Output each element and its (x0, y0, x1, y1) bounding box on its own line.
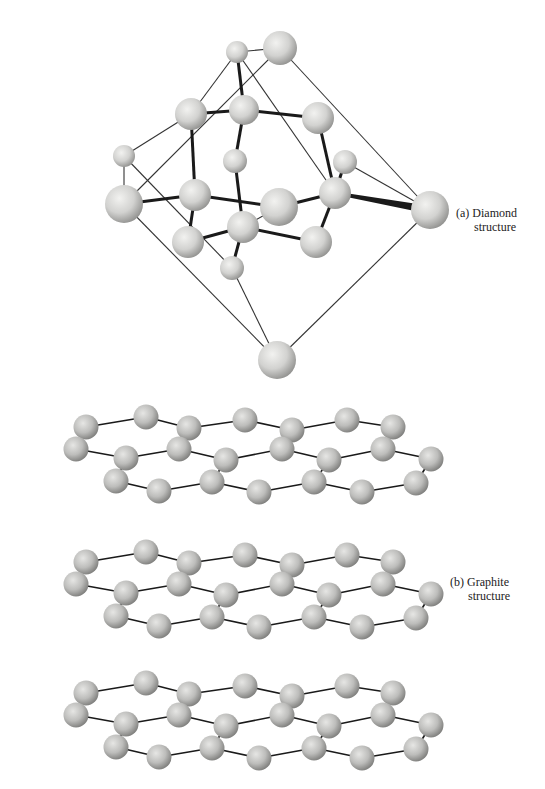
carbon-atom (260, 188, 298, 226)
carbon-atom (404, 737, 429, 762)
carbon-atom (404, 606, 429, 631)
carbon-atom (134, 671, 159, 696)
carbon-atom (350, 615, 375, 640)
carbon-atom (220, 256, 244, 280)
carbon-atom (302, 102, 334, 134)
carbon-atom (147, 745, 172, 770)
carbon-atom (214, 714, 239, 739)
graphite-label-line2: structure (450, 589, 510, 603)
carbon-atom (214, 583, 239, 608)
carbon-atom (167, 437, 192, 462)
diamond-label-line1: (a) Diamond (456, 206, 517, 220)
carbon-atom (302, 736, 327, 761)
carbon-atom (270, 703, 295, 728)
carbon-atom (200, 736, 225, 761)
carbon-atom (247, 746, 272, 771)
carbon-atom (350, 746, 375, 771)
carbon-atom (302, 470, 327, 495)
lattice-line (277, 210, 430, 360)
carbon-atom (104, 604, 129, 629)
carbon-atom (350, 480, 375, 505)
carbon-atom (167, 703, 192, 728)
carbon-atom (335, 543, 360, 568)
graphite-label: (b) Graphite structure (450, 575, 510, 603)
carbon-atom (419, 582, 444, 607)
carbon-atom (179, 179, 211, 211)
carbon-atom (300, 226, 332, 258)
carbon-atom (270, 572, 295, 597)
carbon-atom (105, 185, 143, 223)
carbon-atom (335, 408, 360, 433)
carbon-atom (167, 572, 192, 597)
carbon-atom (114, 581, 139, 606)
carbon-atom (317, 714, 342, 739)
carbon-atom (175, 98, 207, 130)
carbon-atom (247, 480, 272, 505)
carbon-atom (247, 615, 272, 640)
carbon-atom (233, 408, 258, 433)
carbon-atom (74, 681, 99, 706)
carbon-atom (64, 572, 89, 597)
carbon-atom (371, 437, 396, 462)
carbon-atom (404, 471, 429, 496)
carbon-atom (233, 674, 258, 699)
carbon-atom (134, 540, 159, 565)
carbon-atom (114, 446, 139, 471)
graphite-layer-3 (64, 671, 444, 771)
carbon-atom (134, 405, 159, 430)
carbon-atom (381, 415, 406, 440)
carbon-atom (263, 31, 297, 65)
carbon-atom (411, 191, 449, 229)
carbon-atom (64, 437, 89, 462)
carbon-atom (371, 572, 396, 597)
carbon-atom (419, 447, 444, 472)
carbon-atom (223, 149, 247, 173)
carbon-atom (64, 703, 89, 728)
diamond-label: (a) Diamond structure (456, 206, 517, 234)
carbon-atom (270, 437, 295, 462)
crystal-structure-figure (0, 0, 545, 789)
carbon-atom (333, 150, 357, 174)
graphite-layer-1 (64, 405, 444, 505)
carbon-atom (172, 226, 204, 258)
diamond-structure (105, 31, 449, 379)
carbon-atom (74, 550, 99, 575)
carbon-atom (200, 605, 225, 630)
carbon-atom (214, 448, 239, 473)
graphite-layer-2 (64, 540, 444, 640)
graphite-structure (64, 405, 444, 771)
carbon-atom (104, 735, 129, 760)
carbon-atom (113, 145, 135, 167)
carbon-atom (147, 479, 172, 504)
graphite-label-line1: (b) Graphite (450, 575, 509, 589)
carbon-atom (381, 681, 406, 706)
carbon-atom (317, 448, 342, 473)
lattice-line (280, 48, 430, 210)
carbon-atom (104, 469, 129, 494)
carbon-atom (419, 713, 444, 738)
carbon-atom (200, 470, 225, 495)
carbon-atom (371, 703, 396, 728)
carbon-atom (74, 415, 99, 440)
carbon-atom (229, 95, 259, 125)
carbon-atom (227, 211, 259, 243)
carbon-atom (258, 341, 296, 379)
carbon-atom (317, 583, 342, 608)
carbon-atom (302, 605, 327, 630)
carbon-atom (114, 712, 139, 737)
carbon-atom (233, 543, 258, 568)
carbon-atom (226, 41, 248, 63)
carbon-atom (147, 614, 172, 639)
carbon-atom (319, 177, 351, 209)
carbon-atom (335, 674, 360, 699)
diamond-label-line2: structure (456, 220, 517, 234)
carbon-atom (381, 550, 406, 575)
